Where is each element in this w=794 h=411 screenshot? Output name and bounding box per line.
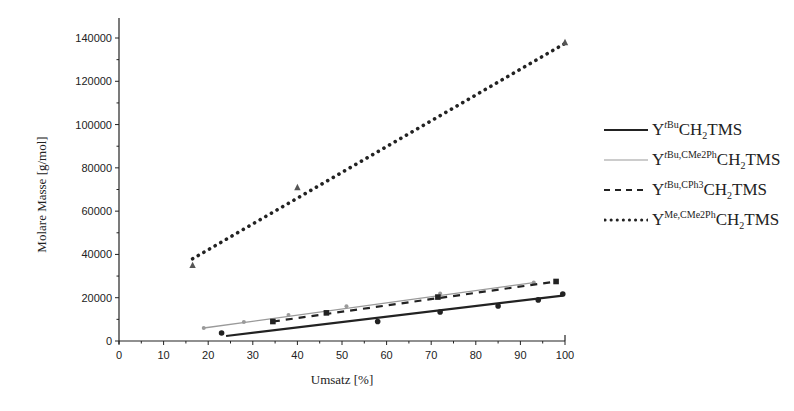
y-axis-title: Molare Masse [g/mol] — [34, 136, 49, 252]
plot-series — [189, 39, 568, 336]
x-tick-label: 90 — [514, 349, 526, 361]
y-tick-label: 0 — [106, 335, 112, 347]
x-tick-label: 60 — [380, 349, 392, 361]
x-tick-label: 10 — [157, 349, 169, 361]
data-point — [324, 310, 330, 316]
legend-label: YtBuCH2TMS — [652, 119, 742, 141]
x-tick-label: 20 — [202, 349, 214, 361]
x-tick-label: 50 — [336, 349, 348, 361]
data-point — [294, 184, 300, 190]
gray-line-swatch-icon — [604, 154, 648, 166]
data-point — [344, 304, 348, 308]
data-point — [435, 294, 441, 300]
data-point — [437, 309, 443, 315]
data-point — [535, 297, 541, 303]
data-point — [495, 303, 501, 309]
data-point — [242, 320, 246, 324]
legend-item-tbu: YtBuCH2TMS — [604, 115, 794, 145]
y-tick-label: 60000 — [81, 205, 112, 217]
x-tick-label: 80 — [470, 349, 482, 361]
fit-line — [193, 43, 565, 258]
data-point — [202, 326, 206, 330]
series-3 — [189, 39, 568, 268]
data-point — [189, 262, 195, 268]
x-tick-label: 0 — [116, 349, 122, 361]
x-tick-label: 100 — [556, 349, 574, 361]
data-point — [560, 291, 566, 297]
x-tick-label: 70 — [425, 349, 437, 361]
legend: YtBuCH2TMS YtBu,CMe2PhCH2TMS YtBu,CPh3CH… — [604, 115, 794, 235]
x-tick-label: 40 — [291, 349, 303, 361]
dashed-line-swatch-icon — [604, 184, 648, 196]
x-tick-label: 30 — [247, 349, 259, 361]
y-tick-label: 20000 — [81, 292, 112, 304]
legend-item-tbu-cph3: YtBu,CPh3CH2TMS — [604, 175, 794, 205]
data-point — [553, 279, 559, 285]
legend-item-me-cme2ph: YMe,CMe2PhCH2TMS — [604, 205, 794, 235]
data-point — [286, 313, 290, 317]
axes: 0102030405060708090100020000400006000080… — [34, 18, 574, 387]
legend-label: YtBu,CMe2PhCH2TMS — [652, 149, 780, 171]
solid-line-swatch-icon — [604, 124, 648, 136]
data-point — [270, 319, 276, 325]
y-tick-label: 80000 — [81, 162, 112, 174]
data-point — [375, 319, 381, 325]
series-0 — [219, 291, 566, 336]
data-point — [219, 330, 225, 336]
y-tick-label: 100000 — [75, 119, 112, 131]
legend-label: YMe,CMe2PhCH2TMS — [652, 209, 779, 231]
data-point — [562, 39, 568, 45]
legend-item-tbu-cme2ph: YtBu,CMe2PhCH2TMS — [604, 145, 794, 175]
y-tick-label: 120000 — [75, 75, 112, 87]
x-axis-title: Umsatz [%] — [311, 372, 373, 387]
y-tick-label: 140000 — [75, 32, 112, 44]
dotted-line-swatch-icon — [604, 214, 648, 226]
y-tick-label: 40000 — [81, 248, 112, 260]
legend-label: YtBu,CPh3CH2TMS — [652, 179, 767, 201]
